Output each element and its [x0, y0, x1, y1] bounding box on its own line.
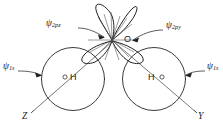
psi-1s-right-subscript: 1s [213, 64, 219, 71]
hydrogen-nucleus-left [63, 75, 67, 79]
label-oxygen-atom: O [124, 35, 131, 44]
leader-psi-1s-left [18, 71, 42, 78]
label-psi-1s-left: ψ1s [3, 62, 15, 72]
axis-y-endpoint [194, 110, 197, 113]
leader-psi-1s-right [185, 71, 205, 78]
label-psi-2pz: ψ2pz [46, 19, 61, 29]
label-psi-2py: ψ2py [166, 21, 181, 31]
axis-y-line [113, 41, 197, 113]
leader-psi-2py [132, 30, 163, 43]
label-axis-z: Z [22, 112, 27, 122]
orbital-diagram-figure: ψ2pz ψ2py ψ1s ψ1s O H H Z Y [0, 0, 223, 131]
psi-1s-left-subscript: 1s [9, 64, 15, 71]
leader-psi-2pz [78, 28, 105, 40]
psi-2pz-sub-axis: z [58, 21, 61, 28]
psi-2py-sub-axis: y [178, 23, 181, 30]
axis-z-endpoint [31, 110, 34, 113]
hydrogen-nucleus-right [160, 75, 164, 79]
diagram-canvas [0, 0, 223, 131]
label-axis-y: Y [198, 112, 203, 122]
label-psi-1s-right: ψ1s [207, 62, 219, 72]
label-hydrogen-right: H [148, 73, 155, 82]
label-hydrogen-left: H [70, 73, 77, 82]
